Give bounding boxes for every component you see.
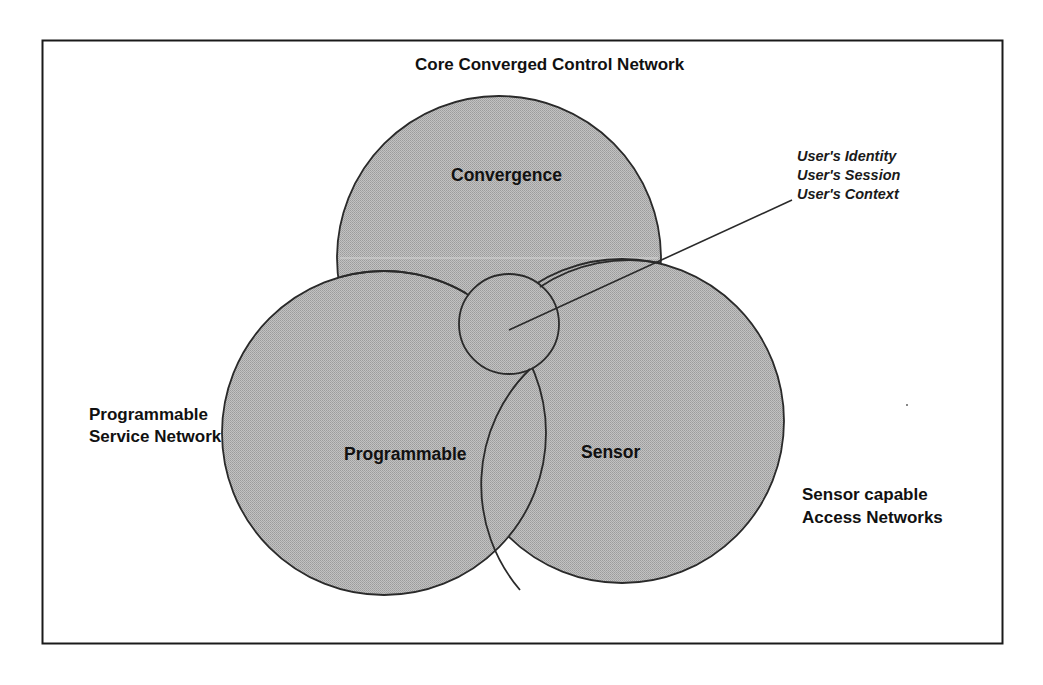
callout-user-identity: User's Identity (797, 147, 896, 166)
sensor-network-label-line1: Sensor capable (802, 484, 928, 506)
diagram-title: Core Converged Control Network (415, 54, 684, 76)
programmable-network-label-line2: Service Network (89, 426, 221, 448)
programmable-network-label-line1: Programmable (89, 404, 208, 426)
sensor-label: Sensor (581, 441, 640, 463)
callout-user-session: User's Session (797, 166, 900, 185)
core-intersection-circle (459, 274, 559, 374)
programmable-label: Programmable (344, 443, 467, 465)
venn-diagram-canvas (0, 0, 1043, 685)
speck (906, 404, 908, 406)
sensor-network-label-line2: Access Networks (802, 507, 943, 529)
convergence-label: Convergence (451, 164, 562, 186)
callout-user-context: User's Context (797, 185, 899, 204)
